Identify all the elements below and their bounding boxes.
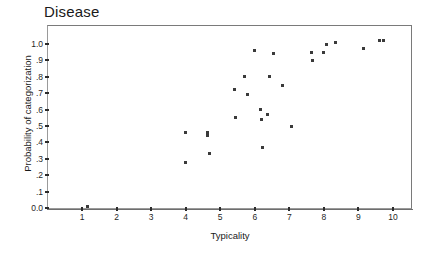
x-tick-mark [357, 207, 359, 211]
data-point [233, 88, 236, 91]
y-tick-mark [45, 92, 49, 94]
y-tick-mark [45, 207, 49, 209]
data-point [260, 118, 263, 121]
data-point [310, 51, 313, 54]
data-point [281, 84, 284, 87]
x-tick-label: 1 [72, 212, 92, 222]
data-point [206, 134, 209, 137]
data-point [208, 152, 211, 155]
x-axis-title: Typicality [47, 230, 413, 241]
x-tick-label: 6 [245, 212, 265, 222]
data-point [246, 93, 249, 96]
data-point [311, 59, 314, 62]
x-tick-mark [81, 207, 83, 211]
page-title: Disease [44, 3, 100, 20]
data-point [290, 125, 293, 128]
data-point [253, 49, 256, 52]
x-tick-label: 8 [314, 212, 334, 222]
data-point [86, 205, 89, 208]
scatter-plot-screenshot: Disease 0.0.1.2.3.4.5.6.7.8.91.0 1234567… [0, 0, 435, 263]
x-tick-label: 5 [210, 212, 230, 222]
data-point [382, 39, 385, 42]
data-point [266, 113, 269, 116]
x-tick-label: 7 [279, 212, 299, 222]
x-tick-mark [288, 207, 290, 211]
x-tick-mark [116, 207, 118, 211]
data-point [243, 75, 246, 78]
data-point [272, 52, 275, 55]
x-tick-mark [150, 207, 152, 211]
x-tick-mark [254, 207, 256, 211]
data-point [268, 75, 271, 78]
x-tick-label: 3 [141, 212, 161, 222]
data-point [322, 51, 325, 54]
y-axis-title: Probability of categorization [22, 29, 33, 199]
y-tick-mark [45, 59, 49, 61]
x-tick-mark [219, 207, 221, 211]
y-tick-mark [45, 76, 49, 78]
x-tick-label: 4 [176, 212, 196, 222]
data-point [184, 131, 187, 134]
plot-area [47, 25, 412, 209]
data-point [261, 146, 264, 149]
data-point [234, 116, 237, 119]
data-point [259, 108, 262, 111]
data-point [334, 41, 337, 44]
y-tick-mark [45, 191, 49, 193]
y-tick-mark [45, 109, 49, 111]
x-tick-mark [185, 207, 187, 211]
x-tick-label: 10 [383, 212, 403, 222]
y-tick-label-wrap: 0.0 [12, 203, 43, 213]
data-point [362, 47, 365, 50]
x-tick-mark [392, 207, 394, 211]
y-tick-mark [45, 158, 49, 160]
y-tick-mark [45, 43, 49, 45]
y-tick-mark [45, 174, 49, 176]
x-tick-label: 9 [348, 212, 368, 222]
x-tick-mark [323, 207, 325, 211]
data-point [184, 161, 187, 164]
x-tick-label: 2 [107, 212, 127, 222]
y-tick-mark [45, 141, 49, 143]
data-point [325, 43, 328, 46]
y-tick-mark [45, 125, 49, 127]
y-tick-label: 0.0 [17, 203, 43, 213]
